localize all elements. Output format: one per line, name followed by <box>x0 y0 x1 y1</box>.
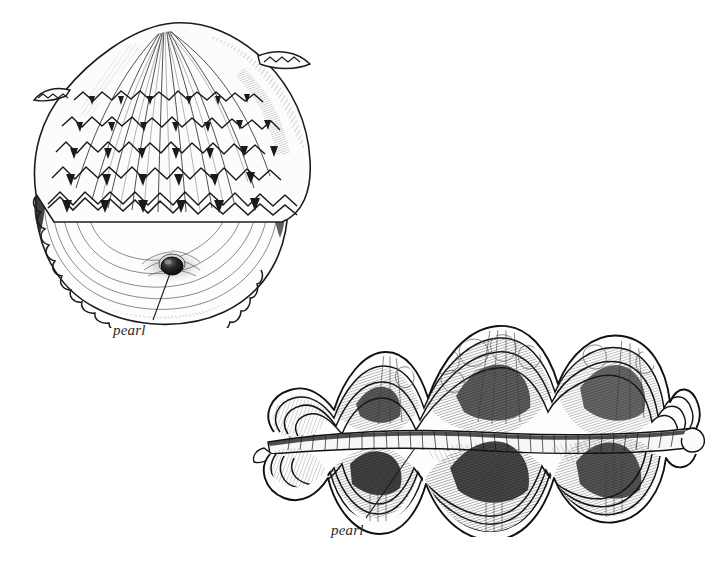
right-auricle <box>258 52 310 69</box>
pearl-in-oyster <box>138 248 206 284</box>
oyster-pearl-label: pearl <box>113 322 146 339</box>
clam-lower-valve <box>264 436 696 537</box>
pearl-oyster-illustration <box>14 8 324 328</box>
pearl-oyster-svg <box>14 8 324 328</box>
clam-pearl-label: pearl <box>331 522 364 539</box>
illustration-page: pearl <box>0 0 715 572</box>
clam-upper-valve <box>268 326 699 440</box>
giant-clam-svg <box>250 312 705 537</box>
giant-clam-illustration <box>250 312 705 537</box>
oyster-upper-valve <box>27 23 310 222</box>
